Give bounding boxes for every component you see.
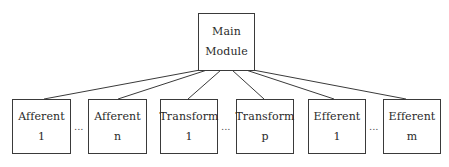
transform-1-box: Transform 1 — [160, 99, 218, 154]
ellipsis-efferent: ... — [369, 122, 379, 132]
transform-p-box: Transform p — [236, 99, 294, 154]
afferent-1-box: Afferent 1 — [12, 99, 71, 154]
transform-p-label-line2: p — [261, 127, 268, 147]
efferent-1-label-line2: 1 — [333, 127, 340, 147]
structure-chart: Main Module Afferent 1 ... Afferent n Tr… — [0, 0, 449, 167]
edge-main-efferent-m — [253, 70, 406, 99]
afferent-1-label-line2: 1 — [38, 127, 45, 147]
transform-p-label-line1: Transform — [235, 107, 294, 127]
main-module-box: Main Module — [198, 13, 255, 71]
transform-1-label-line1: Transform — [159, 107, 218, 127]
afferent-n-label-line2: n — [114, 127, 121, 147]
edge-main-afferent-1 — [44, 70, 200, 99]
ellipsis-afferent: ... — [74, 122, 84, 132]
afferent-n-box: Afferent n — [88, 99, 147, 154]
afferent-n-label-line1: Afferent — [94, 107, 140, 127]
efferent-m-box: Efferent m — [383, 99, 441, 154]
efferent-m-label-line1: Efferent — [389, 107, 436, 127]
transform-1-label-line2: 1 — [185, 127, 192, 147]
main-module-label-line1: Main — [212, 22, 241, 42]
ellipsis-transform: ... — [221, 122, 231, 132]
afferent-1-label-line1: Afferent — [18, 107, 64, 127]
main-module-label-line2: Module — [205, 42, 248, 62]
efferent-m-label-line2: m — [407, 127, 418, 147]
efferent-1-label-line1: Efferent — [314, 107, 361, 127]
efferent-1-box: Efferent 1 — [308, 99, 366, 154]
